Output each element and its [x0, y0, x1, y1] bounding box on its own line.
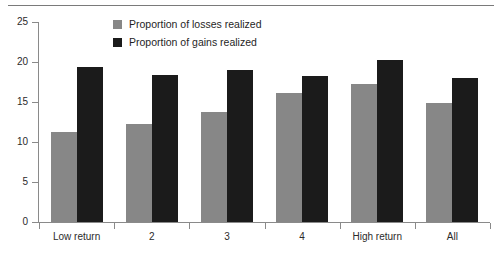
y-tick-label: 0	[2, 217, 28, 227]
bar-losses	[126, 124, 152, 222]
bar-gains	[452, 78, 478, 222]
bar-losses	[51, 132, 77, 222]
bar-gains	[152, 75, 178, 222]
chart-legend: Proportion of losses realized Proportion…	[113, 17, 262, 53]
x-tick-mark	[490, 223, 491, 229]
bar-losses	[351, 84, 377, 222]
bar-losses	[426, 103, 452, 222]
y-tick-label: 10	[2, 137, 28, 147]
bar-gains	[302, 76, 328, 222]
y-tick-label: 5	[2, 177, 28, 187]
y-axis-line	[38, 22, 39, 223]
bar-losses	[276, 93, 302, 222]
legend-label-losses: Proportion of losses realized	[129, 19, 262, 30]
y-tick-label: 20	[2, 57, 28, 67]
x-tick-mark	[39, 223, 40, 229]
x-tick-label: All	[402, 231, 502, 243]
x-tick-mark	[114, 223, 115, 229]
y-tick-label-wrap: 25	[0, 17, 28, 27]
y-tick-mark	[32, 62, 38, 63]
x-axis-line	[38, 222, 490, 223]
x-tick-mark	[415, 223, 416, 229]
y-tick-label-wrap: 0	[0, 217, 28, 227]
legend-label-gains: Proportion of gains realized	[129, 37, 257, 48]
y-tick-label-wrap: 15	[0, 97, 28, 107]
y-tick-label: 15	[2, 97, 28, 107]
legend-swatch-losses-icon	[113, 20, 122, 29]
legend-swatch-gains-icon	[113, 38, 122, 47]
y-tick-mark	[32, 222, 38, 223]
bar-gains	[227, 70, 253, 222]
x-tick-mark	[265, 223, 266, 229]
legend-entry-gains: Proportion of gains realized	[113, 35, 262, 50]
bar-gains	[77, 67, 103, 222]
y-tick-label-wrap: 20	[0, 57, 28, 67]
y-tick-mark	[32, 102, 38, 103]
x-tick-mark	[189, 223, 190, 229]
y-tick-mark	[32, 142, 38, 143]
bar-chart: 0510152025 Low return234High returnAll P…	[0, 0, 502, 253]
y-tick-label-wrap: 5	[0, 177, 28, 187]
bar-gains	[377, 60, 403, 222]
y-tick-mark	[32, 182, 38, 183]
x-tick-mark	[340, 223, 341, 229]
y-tick-label-wrap: 10	[0, 137, 28, 147]
y-tick-mark	[32, 22, 38, 23]
legend-entry-losses: Proportion of losses realized	[113, 17, 262, 32]
y-tick-label: 25	[2, 17, 28, 27]
bar-losses	[201, 112, 227, 222]
